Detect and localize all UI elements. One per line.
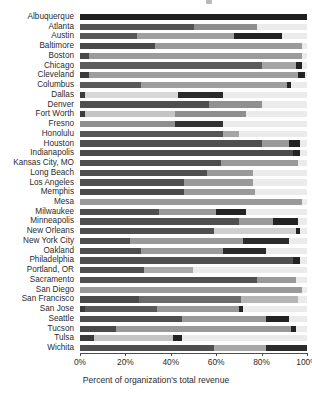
bar-segment	[80, 218, 239, 224]
bar-segment	[246, 209, 307, 215]
stacked-bar-chart: AlbuquerqueAtlantaAustinBaltimoreBostonC…	[0, 0, 312, 396]
y-axis-label: Seattle	[49, 314, 75, 323]
bar-segment	[80, 33, 137, 39]
bar-segment	[80, 121, 175, 127]
bar-segment	[80, 14, 307, 20]
bar-segment	[266, 345, 307, 351]
bar-segment	[302, 53, 307, 59]
y-axis-label: Dallas	[51, 90, 74, 99]
bar-row	[80, 228, 307, 234]
bar-segment	[298, 296, 307, 302]
y-axis-label: San Francisco	[22, 294, 74, 303]
y-axis-label: New York City	[23, 236, 74, 245]
bar-segment	[80, 326, 116, 332]
bar-segment	[80, 287, 302, 293]
bar-row	[80, 14, 307, 20]
bar-segment	[214, 345, 266, 351]
y-axis-label: Los Angeles	[29, 178, 74, 187]
bar-segment	[182, 316, 266, 322]
bar-segment	[80, 267, 144, 273]
bar-row	[80, 296, 307, 302]
bar-segment	[85, 92, 178, 98]
bar-row	[80, 131, 307, 137]
bar-row	[80, 199, 307, 205]
x-axis-ticks: 0%20%40%60%80%100%	[80, 353, 307, 367]
bar-segment	[175, 111, 245, 117]
bar-segment	[302, 199, 307, 205]
bar-segment	[253, 179, 307, 185]
bar-segment	[246, 111, 307, 117]
bar-row	[80, 24, 307, 30]
bar-segment	[257, 277, 296, 283]
bar-segment	[194, 24, 258, 30]
y-axis-label: Denver	[48, 100, 74, 109]
y-axis-label: Tulsa	[54, 333, 74, 342]
y-axis-label: Atlanta	[49, 22, 75, 31]
bar-segment	[291, 82, 307, 88]
bar-segment	[141, 248, 223, 254]
y-axis-label: Philadelphia	[29, 255, 74, 264]
bar-segment	[302, 43, 307, 49]
bar-segment	[262, 62, 296, 68]
bar-segment	[262, 140, 289, 146]
bar-segment	[296, 277, 307, 283]
y-axis-label: Portland, OR	[27, 265, 74, 274]
bar-row	[80, 72, 307, 78]
bar-segment	[80, 228, 214, 234]
bar-row	[80, 33, 307, 39]
x-axis-title: Percent of organization's total revenue	[0, 375, 312, 385]
bar-row	[80, 82, 307, 88]
bar-row	[80, 277, 307, 283]
bar-segment	[298, 160, 307, 166]
bar-segment	[266, 248, 307, 254]
bar-segment	[223, 121, 307, 127]
bar-segment	[80, 316, 182, 322]
bar-row	[80, 267, 307, 273]
bar-row	[80, 140, 307, 146]
x-tick-mark	[262, 353, 263, 356]
y-axis-label: Fort Worth	[35, 109, 74, 118]
y-axis-label: Kansas City, MO	[13, 158, 74, 167]
bar-row	[80, 257, 307, 263]
y-axis-label: Milwaukee	[35, 207, 74, 216]
bar-segment	[130, 238, 244, 244]
y-axis-label: Albuquerque	[28, 12, 74, 21]
bar-segment	[289, 238, 307, 244]
y-axis-label: Fresno	[49, 119, 74, 128]
bar-segment	[262, 101, 307, 107]
bar-row	[80, 150, 307, 156]
y-axis-label: Chicago	[44, 61, 74, 70]
y-axis-label: Indianapolis	[30, 148, 74, 157]
x-tick-label: 20%	[117, 357, 134, 367]
y-axis-label: Long Beach	[30, 168, 74, 177]
bar-segment	[178, 92, 223, 98]
bar-row	[80, 326, 307, 332]
bar-segment	[80, 150, 293, 156]
bar-segment	[159, 209, 216, 215]
bar-segment	[300, 228, 307, 234]
bar-segment	[157, 306, 239, 312]
bar-row	[80, 101, 307, 107]
bar-segment	[293, 257, 300, 263]
bar-segment	[137, 33, 235, 39]
bar-segment	[296, 62, 303, 68]
bar-row	[80, 218, 307, 224]
bar-segment	[300, 150, 307, 156]
x-tick-label: 60%	[208, 357, 225, 367]
bar-segment	[184, 189, 254, 195]
bar-segment	[85, 306, 158, 312]
bar-segment	[300, 257, 307, 263]
bar-segment	[173, 335, 182, 341]
bar-segment	[80, 179, 184, 185]
y-axis-label: Mesa	[54, 197, 74, 206]
bar-row	[80, 160, 307, 166]
bar-segment	[253, 170, 307, 176]
bar-segment	[282, 33, 307, 39]
bar-segment	[193, 267, 307, 273]
bar-segment	[80, 189, 184, 195]
y-axis-label: Tucson	[47, 324, 74, 333]
bar-row	[80, 170, 307, 176]
bar-segment	[257, 24, 307, 30]
bar-segment	[80, 53, 89, 59]
x-tick-label: 100%	[296, 357, 312, 367]
